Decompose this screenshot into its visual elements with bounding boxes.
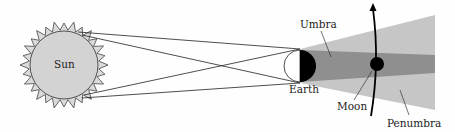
orbit-arrowhead-icon	[370, 3, 377, 11]
earth	[284, 50, 316, 82]
cross-ray-bottom-to-top	[84, 49, 300, 95]
lunar-eclipse-diagram: Sun Earth Umbra Moon Penumbra	[0, 0, 455, 132]
earth-day-side	[284, 50, 300, 82]
umbra-label: Umbra	[300, 18, 337, 30]
moon-label: Moon	[337, 100, 367, 112]
sun-label: Sun	[54, 58, 75, 70]
outer-ray-bottom	[82, 83, 300, 98]
sun-earth-rays	[78, 32, 300, 98]
moon	[370, 57, 384, 71]
diagram-canvas: Sun Earth Umbra Moon Penumbra	[0, 0, 455, 132]
penumbra-label: Penumbra	[387, 117, 441, 129]
outer-ray-top	[78, 32, 300, 49]
earth-label: Earth	[289, 83, 319, 95]
cross-ray-top-to-bottom	[82, 35, 300, 83]
